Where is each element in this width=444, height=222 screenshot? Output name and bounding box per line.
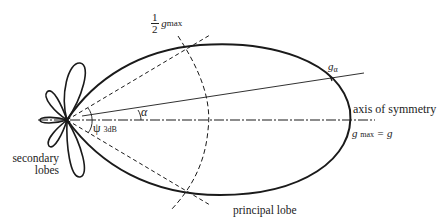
secondary-lobes-label: secondary lobes	[9, 152, 59, 176]
psi-3db-label: ψ 3dB	[93, 122, 117, 134]
alpha-label: α	[141, 106, 147, 118]
half-gmax-label: 1 2 gmax	[151, 12, 182, 35]
gmax-equals-g-label: g max = g	[352, 128, 392, 139]
g-alpha-label: gα	[328, 61, 338, 72]
axis-of-symmetry-label: axis of symmetry	[353, 103, 436, 115]
half-power-arc	[171, 36, 209, 210]
alpha-direction-line	[82, 73, 364, 116]
principal-lobe-label: principal lobe	[233, 205, 297, 217]
half-gmax-fraction: 1 2	[151, 12, 159, 35]
